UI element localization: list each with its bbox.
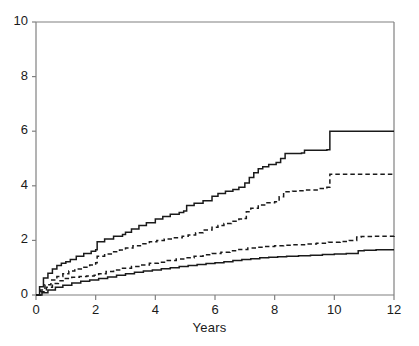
y-tick-label: 0	[2, 286, 28, 301]
x-tick-label: 2	[83, 302, 109, 317]
y-tick-label: 6	[2, 122, 28, 137]
x-tick-label: 6	[202, 302, 228, 317]
x-tick-label: 8	[262, 302, 288, 317]
y-tick-label: 4	[2, 177, 28, 192]
series-lower-solid	[36, 250, 394, 295]
x-tick-label: 0	[23, 302, 49, 317]
y-tick-label: 2	[2, 231, 28, 246]
plot-area	[0, 0, 419, 346]
x-tick-label: 10	[321, 302, 347, 317]
y-tick-label: 8	[2, 68, 28, 83]
y-tick-label: 10	[2, 13, 28, 28]
axis-ticks	[32, 22, 394, 300]
series-upper-dashed	[36, 174, 394, 295]
x-axis-label: Years	[0, 320, 419, 335]
x-tick-label: 4	[142, 302, 168, 317]
x-tick-label: 12	[381, 302, 407, 317]
data-series-group	[36, 131, 394, 295]
cumulative-incidence-chart: 0246810024681012 Years	[0, 0, 419, 346]
series-upper-solid	[36, 131, 394, 295]
